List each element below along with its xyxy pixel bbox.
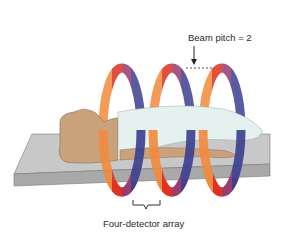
patient-head [59, 109, 118, 163]
patient [59, 106, 262, 163]
detector-array-bracket [133, 200, 160, 209]
beam-pitch-indicator [186, 46, 212, 68]
beam-pitch-label: Beam pitch = 2 [188, 32, 252, 43]
ct-helical-diagram: Beam pitch = 2 Four-detector array [0, 0, 285, 248]
pitch-arrow-head [191, 59, 197, 65]
detector-array-label: Four-detector array [103, 218, 184, 229]
